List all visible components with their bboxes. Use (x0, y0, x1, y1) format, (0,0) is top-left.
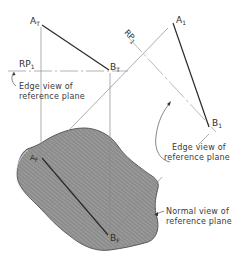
label-b-front-sub: F (116, 237, 119, 244)
annotation-edge-view-left-line2: reference plane (19, 92, 85, 102)
annotation-normal-view-line2: reference plane (154, 217, 232, 227)
label-a-aux-sub: 1 (182, 19, 186, 26)
line-ab-top-view (42, 25, 109, 70)
annotation-edge-view-left-line1: Edge view of (19, 82, 85, 92)
annotation-edge-view-left: Edge view of reference plane (19, 82, 85, 102)
rp1-diagonal-line (127, 36, 216, 132)
label-b-aux-sub: 1 (218, 122, 222, 129)
label-rp-left-sub: 1 (31, 63, 35, 70)
edge-view-right-arrow-icon (167, 101, 171, 106)
annotation-normal-view: Normal view of reference plane (154, 207, 232, 227)
label-rp-left: RP1 (19, 59, 35, 72)
label-a-top-sub: T (36, 20, 40, 27)
label-rp-left-main: RP (19, 59, 31, 69)
normal-view-plane-shape (17, 128, 158, 250)
label-b-aux: B1 (212, 118, 222, 131)
label-b-top-sub: T (116, 66, 120, 73)
line-ab-aux-view (173, 23, 209, 127)
annotation-edge-view-right: Edge view of reference plane (164, 143, 230, 163)
annotation-edge-view-right-line1: Edge view of (164, 143, 230, 153)
label-a-aux: A1 (176, 15, 186, 28)
label-a-front: AF (30, 153, 38, 165)
label-b-front: BF (110, 233, 120, 246)
label-b-top: BT (110, 62, 120, 75)
label-a-top: AT (30, 16, 40, 29)
label-a-front-sub: F (35, 156, 38, 163)
annotation-edge-view-right-line2: reference plane (164, 153, 230, 163)
annotation-normal-view-line1: Normal view of (154, 207, 232, 217)
